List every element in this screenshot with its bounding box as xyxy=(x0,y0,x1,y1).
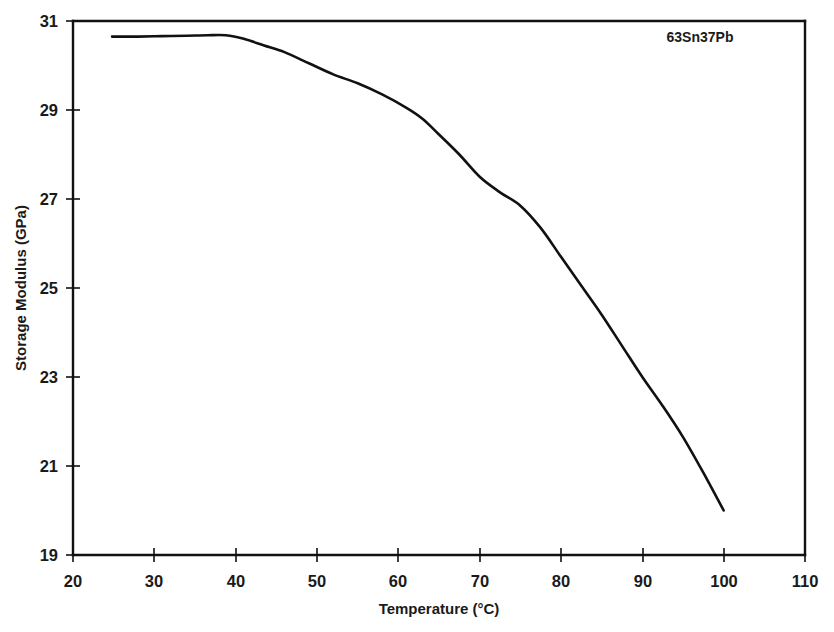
x-tick-label-100: 100 xyxy=(710,572,738,590)
x-tick-label-50: 50 xyxy=(308,572,326,590)
x-tick-labels: 20 30 40 50 60 70 80 90 100 110 xyxy=(64,572,818,590)
x-axis-title: Temperature (°C) xyxy=(379,600,500,617)
material-annotation: 63Sn37Pb xyxy=(667,29,734,45)
y-tick-label-27: 27 xyxy=(40,190,58,208)
storage-modulus-curve xyxy=(112,35,724,511)
x-tick-label-40: 40 xyxy=(227,572,245,590)
y-tick-label-31: 31 xyxy=(40,12,58,30)
y-tick-labels: 31 29 27 25 23 21 19 xyxy=(40,12,58,564)
y-tick-label-29: 29 xyxy=(40,101,58,119)
x-tick-label-80: 80 xyxy=(552,572,570,590)
y-tick-label-25: 25 xyxy=(40,279,58,297)
y-tick-label-19: 19 xyxy=(40,546,58,564)
storage-modulus-chart: 31 29 27 25 23 21 19 20 30 40 50 60 70 8… xyxy=(0,0,834,632)
y-tick-label-23: 23 xyxy=(40,368,58,386)
x-tick-label-20: 20 xyxy=(64,572,82,590)
y-axis-title: Storage Modulus (GPa) xyxy=(12,205,29,371)
plot-frame xyxy=(73,21,805,555)
x-tick-label-110: 110 xyxy=(792,572,819,590)
chart-figure: 31 29 27 25 23 21 19 20 30 40 50 60 70 8… xyxy=(0,0,834,632)
x-tick-label-30: 30 xyxy=(145,572,163,590)
x-tick-label-60: 60 xyxy=(389,572,407,590)
x-tick-label-70: 70 xyxy=(471,572,489,590)
y-tick-label-21: 21 xyxy=(40,457,58,475)
x-tick-label-90: 90 xyxy=(634,572,652,590)
